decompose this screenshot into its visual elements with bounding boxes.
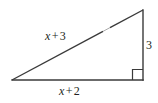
hypotenuse-label: x+3 — [45, 30, 66, 42]
hypotenuse-tick-icon — [103, 28, 110, 32]
right-angle-square-icon — [133, 70, 144, 81]
hypotenuse-label-operator: + — [51, 29, 60, 43]
hypotenuse-label-constant: 3 — [60, 29, 66, 43]
right-triangle-figure: x+3 x+2 3 — [0, 0, 158, 103]
base-label-operator: + — [65, 84, 74, 98]
base-label-constant: 2 — [74, 84, 80, 98]
hypotenuse-label-variable: x — [45, 29, 51, 43]
base-label-variable: x — [59, 84, 65, 98]
vertical-leg-label: 3 — [146, 39, 152, 51]
triangle-hypotenuse-upper — [110, 10, 143, 28]
base-label: x+2 — [59, 85, 80, 97]
vertical-leg-label-value: 3 — [146, 38, 152, 52]
